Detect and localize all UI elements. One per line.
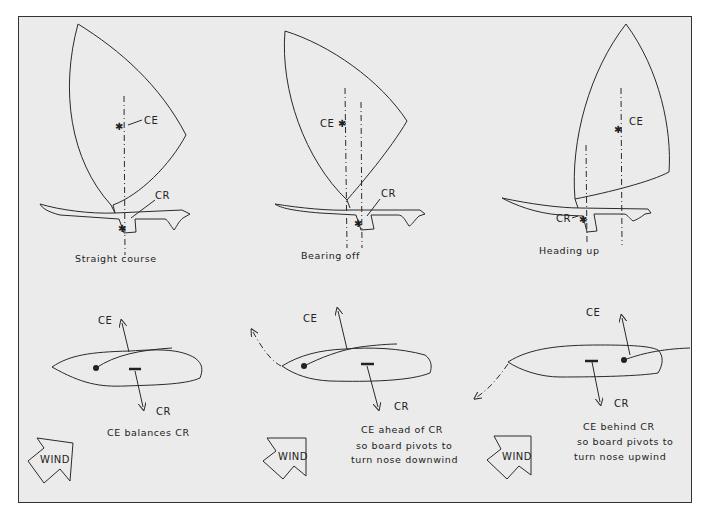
caption-line: turn nose upwind <box>574 451 666 462</box>
board-top-view: CE CR CE balances CR <box>52 315 202 438</box>
board-top-view: CE CR CE behind CR so board pivots to tu… <box>477 307 690 462</box>
cr-force-arrow <box>135 371 143 407</box>
caption-line: turn nose downwind <box>351 454 458 465</box>
mast-foot-dot <box>621 357 627 363</box>
top-ce-label: CE <box>303 313 317 324</box>
cr-force-arrow <box>592 362 600 402</box>
wind-label: WIND <box>40 454 70 465</box>
cr-force-arrow <box>367 366 378 407</box>
pivot-direction-arrow <box>477 364 508 397</box>
mast-foot-dot <box>93 365 99 371</box>
ce-force-arrow <box>122 323 129 352</box>
panel-heading-up: ✱ CE CR ✱ Heading up CE CR CE behind CR … <box>477 24 690 479</box>
board-side-view <box>40 204 190 233</box>
caption-line: so board pivots to <box>577 436 673 447</box>
cr-label: CR <box>155 190 170 201</box>
panel-title: Straight course <box>75 253 157 264</box>
sail-balance-diagram: ✱ CE ✱ CR Straight course CE CR CE balan… <box>0 0 705 511</box>
wind-label: WIND <box>278 451 308 462</box>
ce-force-arrow <box>622 318 630 355</box>
mast-foot-dot <box>301 363 307 369</box>
ce-axis <box>621 88 622 245</box>
cr-star-icon: ✱ <box>579 214 588 225</box>
ce-label: CE <box>320 118 334 129</box>
ce-star-icon: ✱ <box>614 124 623 135</box>
ce-label: CE <box>144 115 158 126</box>
ce-star-icon: ✱ <box>115 121 124 132</box>
panel-bearing-off: CE ✱ ✱ CR Bearing off CE CR CE ahead of … <box>253 31 458 479</box>
board-top-view: CE CR CE ahead of CR so board pivots to … <box>253 311 458 465</box>
pivot-direction-arrow <box>253 332 281 366</box>
panel-title: Heading up <box>539 245 600 256</box>
top-cr-label: CR <box>156 406 171 417</box>
cr-label: CR <box>381 188 396 199</box>
cr-star-icon: ✱ <box>118 223 127 234</box>
ce-star-icon: ✱ <box>338 118 347 129</box>
caption-line: CE behind CR <box>583 421 655 432</box>
panel-title: Bearing off <box>301 250 360 261</box>
top-ce-label: CE <box>98 315 112 326</box>
sail-side-view <box>69 24 186 213</box>
ce-force-arrow <box>338 311 347 349</box>
cr-star-icon: ✱ <box>354 218 363 229</box>
top-cr-label: CR <box>394 401 409 412</box>
wind-arrow-icon: WIND <box>28 438 73 483</box>
cr-label: CR <box>556 213 571 224</box>
caption-line: CE ahead of CR <box>361 424 443 435</box>
wind-label: WIND <box>502 451 532 462</box>
top-cr-label: CR <box>614 398 629 409</box>
caption-line: so board pivots to <box>356 440 452 451</box>
panel-straight-course: ✱ CE ✱ CR Straight course CE CR CE balan… <box>28 24 202 483</box>
wind-arrow-icon: WIND <box>263 438 308 479</box>
caption-line: CE balances CR <box>107 427 190 438</box>
top-ce-label: CE <box>586 307 600 318</box>
ce-label: CE <box>629 116 643 127</box>
ce-axis <box>345 88 347 248</box>
wind-arrow-icon: WIND <box>487 436 532 479</box>
